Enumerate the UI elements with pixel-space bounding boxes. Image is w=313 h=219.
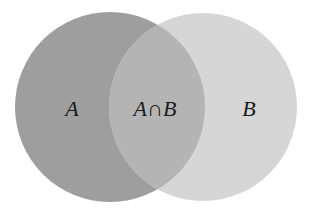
venn-diagram: A A∩B B — [0, 0, 313, 219]
set-a-label: A — [63, 96, 79, 121]
set-b-label: B — [242, 96, 255, 121]
intersection-label: A∩B — [132, 96, 177, 121]
